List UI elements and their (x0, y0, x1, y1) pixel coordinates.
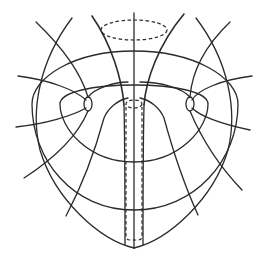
left-radial-2 (18, 76, 86, 100)
hourglass-right-lower (143, 105, 144, 245)
field-line-diagram (0, 0, 264, 256)
right-radial-5 (140, 98, 198, 215)
hourglass-left-upper (92, 16, 124, 105)
outer-ring (32, 51, 238, 210)
diagram-canvas (0, 0, 264, 256)
left-radial-3 (16, 108, 86, 127)
right-radial-1 (190, 22, 230, 97)
right-outer-arc (134, 18, 232, 248)
left-outer-arc (36, 18, 134, 248)
hourglass-right-upper (144, 14, 184, 105)
right-radial-2 (192, 76, 252, 100)
hourglass-left-lower (124, 105, 125, 245)
left-radial-5 (66, 98, 128, 216)
